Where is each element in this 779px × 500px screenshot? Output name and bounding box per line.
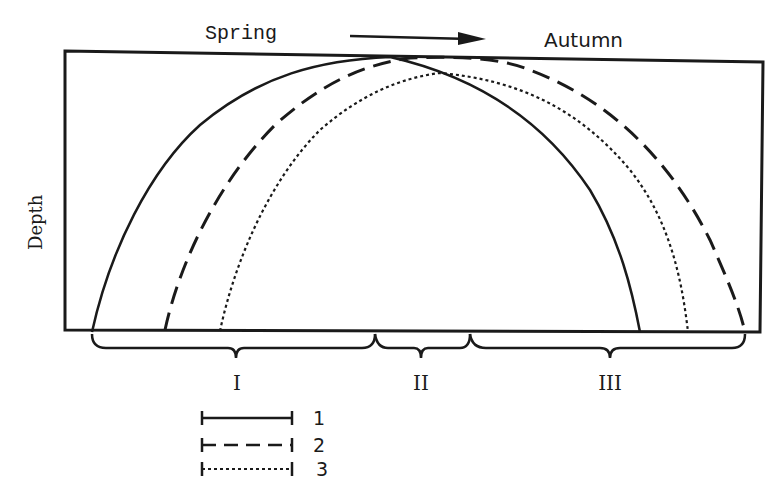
- depth-axis-label: Depth: [25, 194, 46, 250]
- zone-label-i: I: [233, 371, 241, 395]
- zone-label-ii: II: [413, 371, 429, 395]
- legend-label-2: 2: [313, 434, 325, 456]
- zone-label-iii: III: [598, 371, 622, 395]
- zone-brace-i: [92, 334, 375, 358]
- diagram-canvas: Spring Autumn Depth I II III 1: [0, 0, 779, 500]
- curve-2-dashed: [165, 57, 745, 332]
- autumn-label: Autumn: [544, 28, 623, 52]
- zone-brace-iii: [470, 334, 745, 358]
- legend-label-3: 3: [316, 458, 328, 480]
- legend-item-1: 1: [202, 407, 325, 429]
- legend-item-2: 2: [202, 434, 325, 456]
- legend: 1 2 3: [202, 407, 328, 480]
- zone-brace-ii: [375, 334, 470, 358]
- season-arrow-icon: [350, 32, 486, 45]
- legend-label-1: 1: [313, 407, 325, 429]
- plot-frame: [65, 51, 763, 332]
- legend-item-3: 3: [202, 458, 328, 480]
- spring-label: Spring: [205, 22, 277, 45]
